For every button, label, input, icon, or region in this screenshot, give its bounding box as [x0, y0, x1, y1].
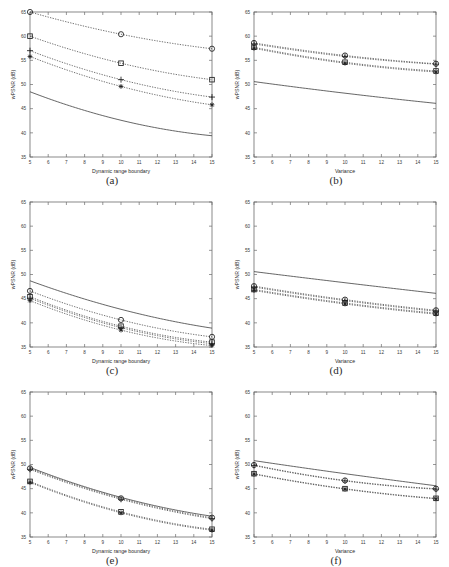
- data-point-circle: [118, 317, 123, 322]
- x-tick-label: 13: [173, 540, 179, 545]
- y-axis-label: wPSNR (dB): [234, 450, 240, 480]
- x-tick-label: 13: [173, 350, 179, 355]
- figure-root: 5678910111213141535404550556065Dynamic r…: [0, 0, 449, 567]
- data-point-asterisk: [343, 61, 348, 66]
- data-point-asterisk: [119, 328, 124, 333]
- series-line-solid: [30, 281, 212, 328]
- x-tick-label: 12: [379, 160, 385, 165]
- x-tick-label: 10: [118, 540, 124, 545]
- y-tick-label: 55: [21, 58, 27, 63]
- plot-canvas: 5678910111213141535404550556065Dynamic r…: [0, 192, 224, 381]
- series-line-solid: [30, 92, 212, 136]
- data-point-asterisk: [252, 288, 257, 293]
- x-tick-label: 15: [209, 350, 215, 355]
- x-tick-label: 8: [307, 350, 310, 355]
- y-tick-label: 65: [21, 200, 27, 205]
- x-tick-label: 9: [326, 350, 329, 355]
- plot-canvas: 5678910111213141535404550556065Variancew…: [224, 192, 448, 381]
- y-tick-label: 65: [21, 10, 27, 15]
- x-tick-label: 6: [47, 540, 50, 545]
- x-tick-label: 11: [361, 160, 366, 165]
- x-tick-label: 7: [65, 160, 68, 165]
- y-tick-label: 40: [245, 131, 251, 136]
- plot-canvas: 5678910111213141535404550556065Dynamic r…: [0, 382, 224, 567]
- y-tick-label: 60: [21, 34, 27, 39]
- x-tick-label: 14: [415, 540, 421, 545]
- y-tick-label: 55: [21, 438, 27, 443]
- y-tick-label: 35: [245, 535, 251, 540]
- x-tick-label: 14: [191, 350, 197, 355]
- data-point-asterisk: [210, 102, 215, 107]
- y-axis-label: wPSNR (dB): [234, 70, 240, 100]
- y-tick-label: 40: [245, 321, 251, 326]
- x-tick-label: 9: [102, 160, 105, 165]
- y-tick-label: 55: [245, 248, 251, 253]
- subplot-b: 5678910111213141535404550556065Variancew…: [224, 2, 448, 191]
- x-tick-label: 13: [397, 350, 403, 355]
- x-tick-label: 6: [47, 160, 50, 165]
- y-tick-label: 65: [21, 390, 27, 395]
- subplot-a: 5678910111213141535404550556065Dynamic r…: [0, 2, 224, 191]
- data-point-asterisk: [343, 302, 348, 307]
- x-tick-label: 5: [253, 350, 256, 355]
- series-line-solid: [254, 272, 436, 294]
- y-tick-label: 60: [245, 224, 251, 229]
- x-tick-label: 12: [379, 540, 385, 545]
- x-tick-label: 5: [29, 350, 32, 355]
- y-tick-label: 50: [21, 462, 27, 467]
- data-point-asterisk: [210, 343, 215, 348]
- x-tick-label: 5: [253, 160, 256, 165]
- x-tick-label: 12: [379, 350, 385, 355]
- series-line-circle: [254, 465, 436, 489]
- x-tick-label: 15: [209, 540, 215, 545]
- y-tick-label: 40: [245, 511, 251, 516]
- y-tick-label: 40: [21, 321, 27, 326]
- y-tick-label: 50: [245, 462, 251, 467]
- x-tick-label: 9: [102, 540, 105, 545]
- x-tick-label: 11: [137, 540, 142, 545]
- y-tick-label: 60: [245, 34, 251, 39]
- y-tick-label: 55: [245, 438, 251, 443]
- y-tick-label: 50: [21, 82, 27, 87]
- y-tick-label: 50: [245, 272, 251, 277]
- series-line-plus: [30, 51, 212, 97]
- series-line-circle: [254, 43, 436, 64]
- x-tick-label: 14: [415, 350, 421, 355]
- y-tick-label: 35: [21, 345, 27, 350]
- y-tick-label: 35: [245, 345, 251, 350]
- data-point-asterisk: [252, 46, 257, 51]
- x-tick-label: 9: [326, 540, 329, 545]
- data-point-plus: [118, 77, 124, 83]
- panel-caption: (e): [0, 554, 224, 566]
- x-tick-label: 8: [83, 160, 86, 165]
- x-tick-label: 14: [191, 160, 197, 165]
- data-point-asterisk: [119, 510, 124, 515]
- y-tick-label: 45: [21, 296, 27, 301]
- series-line-square: [30, 481, 212, 529]
- data-point-plus: [27, 48, 33, 54]
- series-line-asterisk: [30, 482, 212, 530]
- subplot-f: 5678910111213141535404550556065Variancew…: [224, 382, 448, 567]
- x-tick-label: 8: [83, 540, 86, 545]
- plot-canvas: 5678910111213141535404550556065Variancew…: [224, 2, 448, 191]
- x-tick-label: 7: [289, 160, 292, 165]
- data-point-asterisk: [28, 298, 33, 303]
- plot-canvas: 5678910111213141535404550556065Dynamic r…: [0, 2, 224, 191]
- panel-caption: (d): [224, 364, 448, 376]
- x-tick-label: 5: [29, 160, 32, 165]
- x-tick-label: 12: [155, 350, 161, 355]
- x-tick-label: 15: [209, 160, 215, 165]
- panel-caption: (a): [0, 174, 224, 186]
- axes-frame: [254, 12, 436, 157]
- x-tick-label: 7: [289, 540, 292, 545]
- x-tick-label: 6: [271, 160, 274, 165]
- y-tick-label: 45: [245, 106, 251, 111]
- series-line-solid: [254, 82, 436, 104]
- y-tick-label: 60: [21, 224, 27, 229]
- x-tick-label: 6: [271, 350, 274, 355]
- data-point-asterisk: [210, 528, 215, 533]
- data-point-asterisk: [434, 312, 439, 317]
- y-axis-label: wPSNR (dB): [10, 260, 16, 290]
- series-line-square: [30, 36, 212, 80]
- subplot-d: 5678910111213141535404550556065Variancew…: [224, 192, 448, 381]
